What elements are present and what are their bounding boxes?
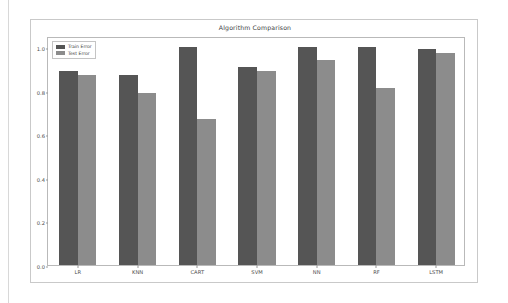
legend-label-train: Train Error — [68, 44, 92, 49]
bar-cart-train — [179, 47, 198, 265]
y-axis-tick-mark — [46, 92, 49, 93]
bar-nn-train — [298, 47, 317, 265]
legend-swatch-test-icon — [56, 51, 65, 55]
bar-nn-test — [317, 60, 336, 265]
page-left-rule — [8, 0, 9, 303]
x-axis-tick-mark — [77, 265, 78, 268]
bar-knn-train — [119, 75, 138, 265]
bar-svm-train — [238, 67, 257, 265]
y-axis-tick-mark — [46, 136, 49, 137]
legend-entry-train: Train Error — [56, 44, 92, 49]
bar-rf-train — [358, 47, 377, 265]
legend-label-test: Test Error — [68, 51, 90, 56]
bar-knn-test — [138, 93, 157, 265]
y-axis-tick-mark — [46, 48, 49, 49]
bar-lr-train — [59, 71, 78, 265]
chart-title: Algorithm Comparison — [31, 24, 479, 31]
x-axis-tick-mark — [376, 265, 377, 268]
bar-rf-test — [376, 88, 395, 265]
plot-area: 0.00.20.40.60.81.0LRKNNCARTSVMNNRFLSTM T… — [47, 37, 465, 266]
x-axis-tick-mark — [137, 265, 138, 268]
x-axis-tick-mark — [197, 265, 198, 268]
plot-inner: 0.00.20.40.60.81.0LRKNNCARTSVMNNRFLSTM — [48, 38, 464, 265]
x-axis-tick-mark — [436, 265, 437, 268]
chart-figure-frame: Algorithm Comparison 0.00.20.40.60.81.0L… — [30, 19, 478, 283]
chart-legend: Train Error Test Error — [52, 41, 96, 59]
bar-lr-test — [78, 75, 97, 265]
x-axis-tick-mark — [316, 265, 317, 268]
x-axis-tick-mark — [257, 265, 258, 268]
legend-swatch-train-icon — [56, 45, 65, 49]
y-axis-tick-mark — [46, 267, 49, 268]
bar-lstm-train — [418, 49, 437, 265]
y-axis-tick-mark — [46, 179, 49, 180]
y-axis-tick-mark — [46, 223, 49, 224]
bar-cart-test — [197, 119, 216, 265]
bar-svm-test — [257, 71, 276, 265]
legend-entry-test: Test Error — [56, 51, 92, 56]
bar-lstm-test — [436, 53, 455, 265]
screenshot-root: Algorithm Comparison 0.00.20.40.60.81.0L… — [0, 0, 508, 303]
